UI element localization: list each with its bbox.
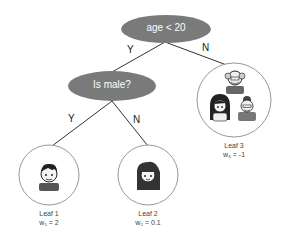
is-male-no-label: N (133, 114, 140, 125)
leaf-2-weight: w₂ = 0.1 (118, 218, 178, 227)
girl-icon (137, 162, 160, 190)
is-male-yes-label: Y (68, 113, 75, 124)
leaf-2-name: Leaf 2 (118, 209, 178, 218)
leaf-3-name: Leaf 3 (204, 141, 264, 150)
leaf-2-label: Leaf 2 w₂ = 0.1 (118, 209, 178, 227)
woman-icon (210, 94, 230, 121)
edge-root-no (165, 42, 232, 67)
root-node-label: age < 20 (121, 22, 211, 33)
tree-diagram (0, 0, 286, 237)
edge-male-yes (52, 101, 112, 146)
edge-male-no (112, 101, 148, 146)
leaf-1-weight: w₁ = 2 (19, 218, 79, 227)
leaf-1-name: Leaf 1 (19, 209, 79, 218)
root-no-label: N (202, 42, 209, 53)
leaf-3-label: Leaf 3 w₃ = -1 (204, 141, 264, 159)
leaf-3-weight: w₃ = -1 (204, 150, 264, 159)
edge-root-yes (112, 42, 165, 72)
boy-icon (39, 164, 59, 191)
leaf-1-label: Leaf 1 w₁ = 2 (19, 209, 79, 227)
root-yes-label: Y (127, 44, 134, 55)
is-male-node-label: Is male? (68, 79, 156, 90)
